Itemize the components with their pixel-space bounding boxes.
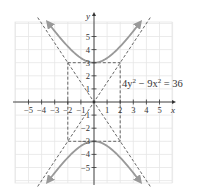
x-axis-label: x xyxy=(170,105,175,115)
y-axis-label: y xyxy=(85,11,90,21)
y-tick-label: −4 xyxy=(81,149,91,159)
x-tick-label: 5 xyxy=(157,105,161,115)
x-tick-label: −4 xyxy=(37,105,47,115)
y-tick-label: 2 xyxy=(86,71,90,81)
x-tick-label: −5 xyxy=(24,105,33,115)
x-tick-label: 2 xyxy=(118,105,122,115)
hyperbola-graph: −5−4−3−2−11234554321−1−2−3−4−5 x y 4y2 −… xyxy=(0,0,200,195)
y-tick-label: −3 xyxy=(81,136,90,146)
y-tick-label: 5 xyxy=(86,32,90,42)
x-axis-arrow-icon xyxy=(172,100,176,104)
y-tick-label: −1 xyxy=(81,110,90,120)
eq-part-rhs: = 36 xyxy=(161,78,183,89)
x-tick-label: 4 xyxy=(144,105,149,115)
axes xyxy=(13,12,176,185)
y-axis-arrow-icon xyxy=(92,12,96,16)
x-tick-label: 3 xyxy=(131,105,135,115)
x-tick-label: −3 xyxy=(50,105,59,115)
origin-point xyxy=(93,101,96,104)
y-tick-label: 3 xyxy=(86,58,90,68)
equation-label: 4y2 − 9x2 = 36 xyxy=(122,77,183,89)
eq-part-op: − 9x xyxy=(136,78,158,89)
y-tick-label: −2 xyxy=(81,123,90,133)
x-tick-label: −2 xyxy=(63,105,72,115)
y-tick-label: 1 xyxy=(86,84,90,94)
x-tick-label: 1 xyxy=(105,105,109,115)
y-tick-label: −5 xyxy=(81,163,90,173)
